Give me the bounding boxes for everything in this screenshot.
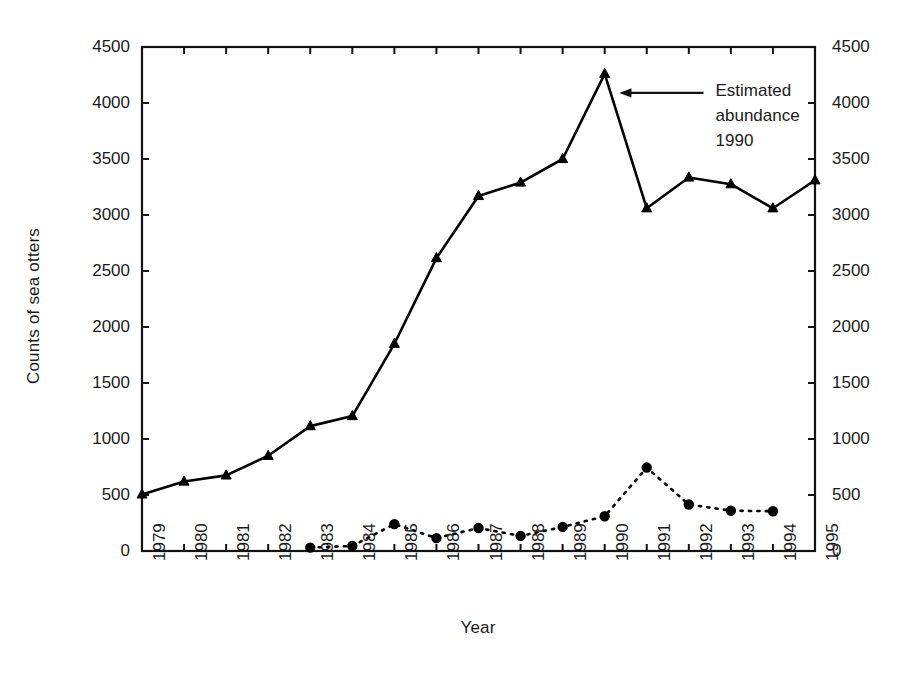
- y-axis-tick-label-left: 4500: [30, 37, 130, 57]
- annotation-text-line: Estimated: [716, 81, 792, 101]
- y-axis-tick-label-right: 0: [832, 541, 911, 561]
- annotation-text-line: 1990: [716, 131, 754, 151]
- y-axis-tick-label-right: 4000: [832, 93, 911, 113]
- data-point-circle: [347, 541, 357, 551]
- y-axis-tick-label-left: 1000: [30, 429, 130, 449]
- x-axis-tick-label: 1987: [487, 523, 507, 561]
- plot-canvas: [0, 0, 911, 674]
- data-point-circle: [642, 462, 652, 472]
- x-axis-tick-label: 1981: [234, 523, 254, 561]
- y-axis-tick-label-left: 4000: [30, 93, 130, 113]
- data-point-circle: [431, 533, 441, 543]
- x-axis-tick-label: 1983: [318, 523, 338, 561]
- x-axis-title: Year: [378, 618, 578, 638]
- data-point-circle: [389, 519, 399, 529]
- y-axis-tick-label-right: 1000: [832, 429, 911, 449]
- x-axis-tick-label: 1984: [360, 523, 380, 561]
- y-axis-tick-label-left: 0: [30, 541, 130, 561]
- data-point-circle: [599, 511, 609, 521]
- x-axis-tick-label: 1979: [150, 523, 170, 561]
- data-point-circle: [768, 506, 778, 516]
- y-axis-tick-label-left: 3000: [30, 205, 130, 225]
- annotation-arrow-head: [619, 88, 631, 97]
- y-axis-tick-label-right: 4500: [832, 37, 911, 57]
- data-point-circle: [557, 522, 567, 532]
- x-axis-tick-label: 1982: [276, 523, 296, 561]
- y-axis-tick-label-right: 2000: [832, 317, 911, 337]
- data-point-circle: [473, 523, 483, 533]
- x-axis-tick-label: 1993: [739, 523, 759, 561]
- x-axis-tick-label: 1988: [529, 523, 549, 561]
- y-axis-tick-label-right: 3000: [832, 205, 911, 225]
- x-axis-tick-label: 1990: [613, 523, 633, 561]
- y-axis-tick-label-right: 1500: [832, 373, 911, 393]
- sea-otter-counts-chart: Counts of sea otters Year 00500500100010…: [0, 0, 911, 674]
- x-axis-tick-label: 1992: [697, 523, 717, 561]
- x-axis-tick-label: 1991: [655, 523, 675, 561]
- x-axis-tick-label: 1986: [444, 523, 464, 561]
- y-axis-tick-label-left: 2000: [30, 317, 130, 337]
- y-axis-tick-label-left: 3500: [30, 149, 130, 169]
- y-axis-tick-label-left: 2500: [30, 261, 130, 281]
- x-axis-tick-label: 1980: [192, 523, 212, 561]
- data-point-triangle: [600, 68, 610, 77]
- annotation-text-line: abundance: [716, 106, 800, 126]
- x-axis-tick-label: 1994: [781, 523, 801, 561]
- x-axis-tick-label: 1989: [571, 523, 591, 561]
- data-point-circle: [726, 505, 736, 515]
- data-point-circle: [305, 542, 315, 552]
- series-line-solid: [142, 74, 815, 495]
- x-axis-tick-label: 1995: [823, 523, 843, 561]
- data-point-circle: [684, 499, 694, 509]
- y-axis-tick-label-left: 1500: [30, 373, 130, 393]
- x-axis-tick-label: 1985: [402, 523, 422, 561]
- data-point-triangle: [684, 172, 694, 181]
- plot-frame: [142, 47, 815, 551]
- y-axis-tick-label-left: 500: [30, 485, 130, 505]
- data-point-triangle: [810, 175, 820, 184]
- y-axis-tick-label-right: 500: [832, 485, 911, 505]
- y-axis-tick-label-right: 2500: [832, 261, 911, 281]
- data-point-circle: [515, 531, 525, 541]
- y-axis-tick-label-right: 3500: [832, 149, 911, 169]
